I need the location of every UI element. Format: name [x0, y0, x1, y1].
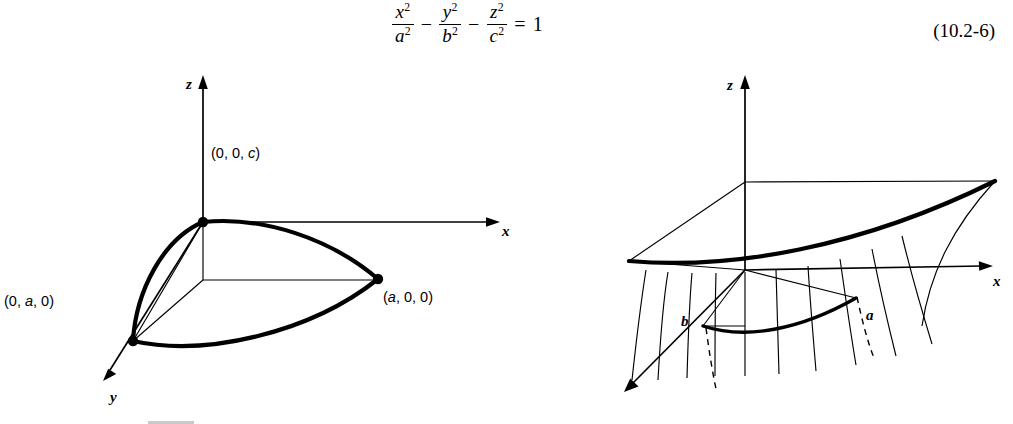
display-equation: x2 a2 − y2 b2 − z2 c2 = 1: [390, 2, 543, 47]
equals-sign: =: [514, 13, 525, 36]
left-x-axis-label: x: [501, 223, 510, 239]
left-label-y-vertex: (0, a, 0): [4, 293, 54, 309]
right-z-axis-label: z: [726, 77, 733, 93]
right-x-axis: [745, 261, 993, 271]
right-figure-hyperboloid: z x: [624, 75, 1001, 392]
equation-number: (10.2-6): [933, 20, 995, 42]
minus-operator-2: −: [468, 13, 479, 36]
left-figure-ellipsoid-octant: z x y: [4, 75, 510, 405]
left-z-axis-label: z: [185, 76, 192, 92]
fraction-denominator: c2: [487, 26, 508, 47]
left-z-axis: [198, 75, 208, 222]
left-vertex-dot-y: [128, 336, 138, 346]
right-waist-rim: [703, 298, 856, 332]
left-label-top-vertex: (0, 0, c): [211, 145, 260, 161]
left-vertex-dot-z: [198, 217, 208, 227]
left-octant-arcs: [133, 221, 378, 346]
fraction-denominator: b2: [439, 26, 461, 47]
right-top-plane: [629, 181, 995, 270]
right-dashed-continuations: [706, 297, 874, 389]
figures-svg: z x y: [0, 58, 1013, 424]
fraction-denominator: a2: [392, 26, 414, 47]
fraction-numerator: z2: [487, 2, 507, 23]
left-y-axis-label: y: [108, 389, 117, 405]
exponent: 2: [498, 1, 504, 14]
right-z-axis: [740, 75, 750, 270]
minus-operator-1: −: [421, 13, 432, 36]
fraction-z2-over-c2: z2 c2: [487, 2, 508, 47]
left-label-x-vertex: (a, 0, 0): [383, 289, 433, 305]
exponent: 2: [405, 25, 411, 38]
left-interior-guides: [133, 222, 378, 341]
right-label-a-intercept: a: [866, 307, 874, 323]
right-hand-side: 1: [533, 13, 543, 36]
equation-row: x2 a2 − y2 b2 − z2 c2 = 1 (10.2-6): [0, 0, 1013, 62]
right-upper-rim: [629, 181, 995, 326]
left-y-axis: [103, 222, 203, 381]
fraction-x2-over-a2: x2 a2: [392, 2, 414, 47]
exponent: 2: [404, 1, 410, 14]
exponent: 2: [451, 1, 457, 14]
figure-page: x2 a2 − y2 b2 − z2 c2 = 1 (10.2-6): [0, 0, 1013, 424]
right-x-axis-label: x: [992, 273, 1001, 289]
left-vertex-dot-x: [373, 274, 383, 284]
exponent: 2: [452, 25, 458, 38]
fraction-y2-over-b2: y2 b2: [439, 2, 461, 47]
fraction-numerator: x2: [393, 2, 414, 23]
exponent: 2: [498, 25, 504, 38]
right-inner-plane: [703, 270, 856, 326]
figure-area: z x y: [0, 58, 1013, 424]
right-ruling-curves: [632, 236, 932, 380]
right-label-b-intercept: b: [681, 313, 689, 329]
fraction-numerator: y2: [440, 2, 461, 23]
